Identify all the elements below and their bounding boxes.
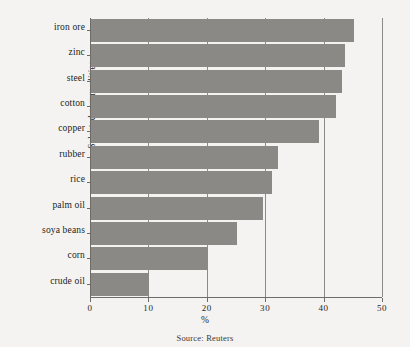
bars-group: iron orezincsteelcottoncopperrubberricep… — [91, 18, 382, 296]
y-tick-mark — [87, 131, 91, 132]
x-tick-mark-10 — [148, 298, 149, 302]
y-tick-mark — [87, 284, 91, 285]
bar-chart-figure: Selected commodities iron orezincsteelco… — [0, 0, 410, 347]
y-tick-label: crude oil — [50, 276, 85, 286]
bar-crude-oil — [91, 273, 149, 296]
bar-row: rice — [91, 170, 382, 195]
x-tick-mark-0 — [90, 298, 91, 302]
x-tick-label-20: 20 — [192, 303, 222, 313]
y-tick-mark — [87, 258, 91, 259]
bar-rubber — [91, 146, 278, 169]
bar-cotton — [91, 95, 336, 118]
bar-row: iron ore — [91, 18, 382, 43]
y-tick-mark — [87, 157, 91, 158]
y-tick-label: zinc — [69, 47, 85, 57]
bar-row: zinc — [91, 43, 382, 68]
x-tick-mark-40 — [324, 298, 325, 302]
y-tick-label: palm oil — [52, 200, 85, 210]
bar-iron-ore — [91, 19, 354, 42]
y-tick-mark — [87, 55, 91, 56]
bar-row: rubber — [91, 145, 382, 170]
y-tick-mark — [87, 30, 91, 31]
bar-copper — [91, 120, 319, 143]
bar-row: steel — [91, 69, 382, 94]
y-tick-mark — [87, 182, 91, 183]
y-tick-mark — [87, 106, 91, 107]
x-tick-mark-30 — [265, 298, 266, 302]
bar-steel — [91, 70, 342, 93]
x-tick-mark-50 — [382, 298, 383, 302]
y-tick-label: rubber — [59, 149, 85, 159]
y-tick-label: iron ore — [54, 22, 85, 32]
x-tick-label-30: 30 — [250, 303, 280, 313]
plot-area: iron orezincsteelcottoncopperrubberricep… — [90, 18, 382, 297]
bar-row: soya beans — [91, 221, 382, 246]
x-axis-title: % — [0, 315, 410, 325]
x-tick-label-40: 40 — [309, 303, 339, 313]
bar-row: crude oil — [91, 272, 382, 297]
y-tick-label: cotton — [60, 98, 85, 108]
x-tick-mark-20 — [207, 298, 208, 302]
y-tick-label: steel — [67, 73, 85, 83]
x-tick-label-50: 50 — [367, 303, 397, 313]
y-tick-mark — [87, 81, 91, 82]
y-tick-label: corn — [68, 250, 85, 260]
x-tick-label-0: 0 — [75, 303, 105, 313]
y-tick-mark — [87, 233, 91, 234]
y-tick-label: copper — [58, 123, 85, 133]
y-tick-mark — [87, 208, 91, 209]
bar-row: palm oil — [91, 196, 382, 221]
bar-zinc — [91, 44, 345, 67]
y-tick-label: rice — [70, 174, 85, 184]
y-tick-label: soya beans — [42, 225, 85, 235]
bar-row: cotton — [91, 94, 382, 119]
bar-corn — [91, 247, 208, 270]
source-caption: Source: Reuters — [0, 333, 410, 343]
bar-row: copper — [91, 119, 382, 144]
x-axis-line — [90, 297, 382, 298]
x-tick-label-10: 10 — [133, 303, 163, 313]
gridline-50 — [382, 18, 383, 297]
bar-palm-oil — [91, 197, 263, 220]
bar-row: corn — [91, 246, 382, 271]
bar-rice — [91, 171, 272, 194]
bar-soya-beans — [91, 222, 237, 245]
